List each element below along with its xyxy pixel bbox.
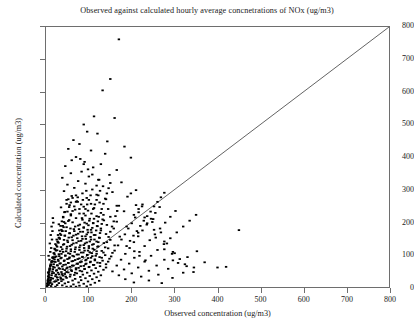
data-point	[47, 276, 49, 278]
data-point	[84, 277, 86, 279]
data-point	[137, 232, 139, 234]
data-point	[90, 257, 92, 259]
data-point	[86, 285, 88, 287]
data-point	[75, 234, 77, 236]
data-point	[94, 234, 96, 236]
data-point	[87, 168, 89, 170]
data-point	[108, 258, 110, 260]
data-point	[69, 276, 71, 278]
data-point	[154, 233, 156, 235]
data-point	[47, 255, 49, 257]
data-point	[95, 267, 97, 269]
data-point	[65, 226, 67, 228]
data-point	[93, 264, 95, 266]
data-point	[84, 183, 86, 185]
data-point	[95, 253, 97, 255]
data-point	[60, 271, 62, 273]
data-point	[77, 196, 79, 198]
data-point	[113, 250, 115, 252]
data-point	[83, 206, 85, 208]
data-point	[141, 230, 143, 232]
data-point	[49, 265, 51, 267]
data-point	[50, 234, 52, 236]
data-point	[73, 206, 75, 208]
data-point	[103, 242, 105, 244]
data-point	[111, 191, 113, 193]
data-point	[123, 210, 125, 212]
data-point	[93, 239, 95, 241]
data-point	[50, 274, 52, 276]
data-point	[109, 216, 111, 218]
data-point	[69, 274, 71, 276]
data-point	[155, 265, 157, 267]
data-point	[98, 179, 100, 181]
data-point	[97, 271, 99, 273]
data-point	[60, 253, 62, 255]
y-axis-tick-label: 0	[374, 284, 414, 292]
data-point	[141, 204, 143, 206]
data-point	[86, 254, 88, 256]
data-point	[89, 218, 91, 220]
data-point	[83, 161, 85, 163]
data-point	[52, 266, 54, 268]
data-point	[60, 278, 62, 280]
data-point	[65, 230, 67, 232]
data-point	[128, 247, 130, 249]
data-point	[75, 156, 77, 158]
data-point	[113, 245, 115, 247]
data-point	[203, 261, 205, 263]
data-point	[169, 216, 171, 218]
data-point	[68, 219, 70, 221]
data-point	[118, 274, 120, 276]
data-point	[91, 252, 93, 254]
data-point	[56, 239, 58, 241]
data-point	[66, 211, 68, 213]
data-point	[137, 267, 139, 269]
data-point	[61, 284, 63, 286]
data-point	[149, 239, 151, 241]
data-point	[72, 235, 74, 237]
data-point	[64, 255, 66, 257]
data-points-layer	[46, 27, 389, 287]
data-point	[130, 193, 132, 195]
data-point	[163, 241, 165, 243]
data-point	[56, 276, 58, 278]
data-point	[99, 265, 101, 267]
data-point	[124, 253, 126, 255]
data-point	[59, 250, 61, 252]
data-point	[50, 226, 52, 228]
data-point	[51, 272, 53, 274]
data-point	[82, 274, 84, 276]
data-point	[143, 217, 145, 219]
data-point	[119, 236, 121, 238]
data-point	[56, 284, 58, 286]
data-point	[66, 240, 68, 242]
data-point	[133, 282, 135, 284]
data-point	[107, 208, 109, 210]
data-point	[74, 246, 76, 248]
data-point	[124, 233, 126, 235]
data-point	[141, 206, 143, 208]
data-point	[71, 159, 73, 161]
data-point	[87, 250, 89, 252]
data-point	[92, 243, 94, 245]
y-axis-tick	[40, 157, 45, 158]
data-point	[87, 257, 89, 259]
data-point	[104, 198, 106, 200]
data-point	[102, 185, 104, 187]
data-point	[128, 263, 130, 265]
data-point	[70, 202, 72, 204]
data-point	[109, 182, 111, 184]
data-point	[80, 240, 82, 242]
data-point	[113, 220, 115, 222]
data-point	[68, 237, 70, 239]
data-point	[65, 271, 67, 273]
data-point	[106, 193, 108, 195]
y-axis-tick	[40, 124, 45, 125]
data-point	[120, 259, 122, 261]
data-point	[134, 217, 136, 219]
data-point	[90, 239, 92, 241]
data-point	[55, 250, 57, 252]
data-point	[102, 269, 104, 271]
data-point	[67, 148, 69, 150]
